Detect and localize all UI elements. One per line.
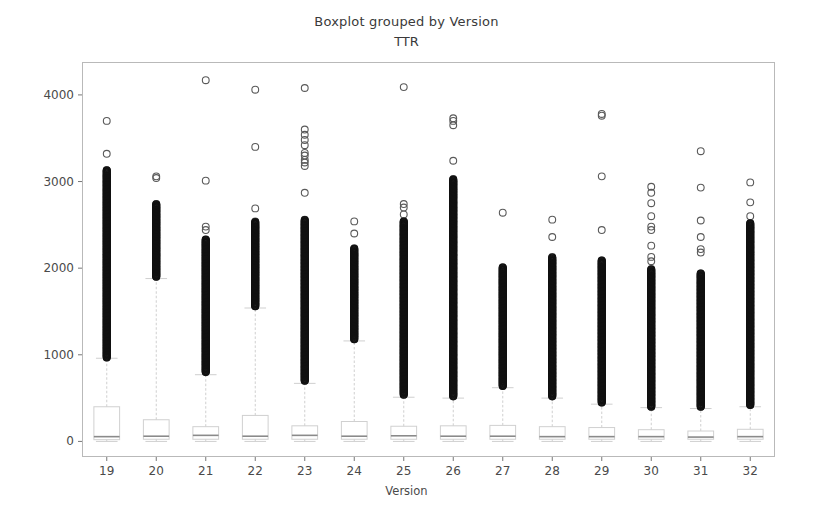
x-tick-label: 29 [582, 464, 622, 478]
dense-fliers-27 [499, 264, 506, 389]
box-group-24 [341, 341, 367, 441]
x-tick-label: 23 [285, 464, 325, 478]
plot-canvas [0, 0, 813, 521]
box-group-19 [94, 358, 120, 441]
box-group-30 [638, 408, 664, 442]
x-tick-label: 21 [186, 464, 226, 478]
dense-fliers-21 [202, 236, 209, 375]
box-group-32 [737, 407, 763, 442]
y-tick-label: 3000 [28, 175, 74, 189]
x-tick-label: 25 [384, 464, 424, 478]
box-group-25 [391, 397, 417, 441]
box-group-21 [193, 375, 219, 442]
dense-fliers-23 [301, 217, 308, 384]
x-tick-label: 22 [235, 464, 275, 478]
box-group-23 [292, 383, 318, 441]
box-group-28 [539, 398, 565, 441]
dense-fliers-25 [400, 218, 407, 398]
x-tick-label: 32 [730, 464, 770, 478]
dense-fliers-28 [549, 254, 556, 400]
x-tick-label: 19 [87, 464, 127, 478]
x-tick-label: 24 [334, 464, 374, 478]
x-tick-label: 20 [136, 464, 176, 478]
y-tick-label: 2000 [28, 261, 74, 275]
dense-fliers-19 [103, 167, 110, 361]
dense-fliers-26 [450, 176, 457, 400]
box-group-20 [143, 279, 169, 442]
chart-root: Boxplot grouped by Version TTR 010002000… [0, 0, 813, 521]
boxplot-svg [0, 0, 813, 521]
box-group-27 [490, 388, 516, 442]
x-tick-label: 27 [483, 464, 523, 478]
y-tick-label: 0 [28, 434, 74, 448]
x-axis-title: Version [0, 484, 813, 498]
dense-fliers-22 [252, 219, 259, 310]
dense-fliers-30 [648, 266, 655, 410]
x-tick-label: 31 [681, 464, 721, 478]
dense-fliers-24 [351, 245, 358, 342]
dense-fliers-20 [153, 201, 160, 280]
box-group-22 [242, 308, 268, 441]
box-group-29 [589, 404, 615, 441]
y-tick-label: 1000 [28, 348, 74, 362]
dense-fliers-32 [747, 220, 754, 408]
box-group-26 [440, 398, 466, 441]
x-tick-label: 30 [631, 464, 671, 478]
box-group-31 [688, 408, 714, 441]
dense-fliers-31 [697, 270, 704, 410]
x-tick-label: 28 [532, 464, 572, 478]
dense-fliers-29 [598, 257, 605, 406]
x-tick-label: 26 [433, 464, 473, 478]
y-tick-label: 4000 [28, 88, 74, 102]
